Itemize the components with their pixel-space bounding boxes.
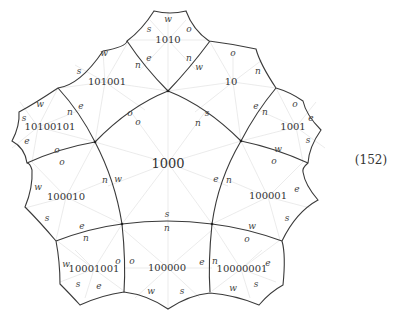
port-100010-n: n <box>102 175 108 185</box>
port-100001-w: w <box>248 221 256 231</box>
tile-label-100001: 100001 <box>249 190 287 201</box>
port-10-o: o <box>230 48 236 58</box>
port-1000-e: e <box>213 174 218 184</box>
port-10-e: e <box>253 101 258 111</box>
port-1000-s: s <box>165 209 170 219</box>
port-1010-n: n <box>186 53 192 63</box>
port-10001001-e: e <box>96 281 101 291</box>
port-1010-s: s <box>147 24 152 34</box>
edge-1010-left <box>127 41 168 91</box>
vertex-right <box>240 140 243 143</box>
port-1001-e: e <box>308 113 313 123</box>
port-100010-e: e <box>79 221 84 231</box>
port-1000-n: n <box>195 118 201 128</box>
port-10000001-o: o <box>244 234 250 244</box>
port-10000001-e: e <box>265 258 270 268</box>
port-1000-w: w <box>114 174 122 184</box>
port-100001-n: n <box>226 175 232 185</box>
port-1010-w: w <box>164 14 172 24</box>
port-100000-e: e <box>199 257 204 267</box>
port-100001-s: s <box>285 213 290 223</box>
equation-number: (152) <box>355 153 387 167</box>
port-100010-w: w <box>34 182 42 192</box>
tile-label-10000001: 10000001 <box>217 263 268 274</box>
tile-label-10001001: 10001001 <box>69 263 120 274</box>
vertex-bottom-right <box>211 223 214 226</box>
port-101001-s: s <box>77 66 82 76</box>
port-100000-n: n <box>164 223 170 233</box>
port-10-w: w <box>195 62 203 72</box>
tile-label-1010: 1010 <box>155 34 180 45</box>
port-10100101-n: n <box>67 107 73 117</box>
tile-label-10: 10 <box>225 76 238 87</box>
port-1001-o: o <box>292 99 298 109</box>
port-10100101-s: s <box>22 113 27 123</box>
tile-label-1000: 1000 <box>151 156 184 171</box>
port-10100101-o: o <box>54 145 60 155</box>
port-10001001-n: n <box>83 233 89 243</box>
port-100000-s: s <box>180 286 185 296</box>
port-100010-o: o <box>59 157 65 167</box>
port-1001-w: w <box>274 144 282 154</box>
port-1001-s: s <box>306 135 311 145</box>
port-1001-n: n <box>262 107 268 117</box>
port-100000-w: w <box>147 286 155 296</box>
port-10000001-s: s <box>254 279 259 289</box>
port-1010-o: o <box>186 24 192 34</box>
port-10100101-w: w <box>36 99 44 109</box>
edge-1010-right <box>168 41 210 91</box>
port-10000001-n: n <box>212 256 218 266</box>
hyperbolic-tiling-diagram: 1000 1010 101001 10 10100101 1001 100010… <box>0 0 408 319</box>
port-1010-e: e <box>146 53 151 63</box>
vertex-left <box>94 141 97 144</box>
port-10001001-w: w <box>62 259 70 269</box>
port-101001-e: e <box>78 101 83 111</box>
port-101001-w: w <box>100 48 108 58</box>
port-100010-s: s <box>45 213 50 223</box>
tile-label-1001: 1001 <box>280 121 305 132</box>
port-100001-o: o <box>271 156 277 166</box>
edge-bottomleft-vert <box>122 224 125 292</box>
port-100001-e: e <box>294 184 299 194</box>
port-10-n: n <box>255 66 261 76</box>
tile-label-100010: 100010 <box>47 191 85 202</box>
vertex-top <box>167 90 170 93</box>
port-101001-o: o <box>127 108 133 118</box>
tile-label-101001: 101001 <box>88 76 126 87</box>
vertex-bottom-left <box>121 223 124 226</box>
tile-label-10100101: 10100101 <box>25 121 76 132</box>
port-100000-o: o <box>129 256 135 266</box>
tile-label-100000: 100000 <box>148 262 186 273</box>
port-10001001-o: o <box>115 256 121 266</box>
port-10100101-e: e <box>24 136 29 146</box>
port-10-s: s <box>205 108 210 118</box>
port-1000-o: o <box>135 117 141 127</box>
edge-bottomleft-horiz <box>56 224 122 241</box>
port-10001001-s: s <box>76 279 81 289</box>
port-101001-n: n <box>135 60 141 70</box>
port-10000001-w: w <box>229 283 237 293</box>
